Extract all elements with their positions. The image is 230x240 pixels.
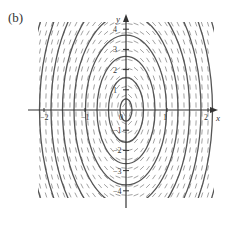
slope-mark <box>172 84 173 89</box>
slope-mark <box>63 156 64 161</box>
slope-mark <box>183 147 184 152</box>
slope-mark <box>105 139 107 144</box>
slope-mark <box>153 67 155 72</box>
slope-mark <box>134 148 138 151</box>
slope-mark <box>45 183 46 188</box>
slope-mark <box>81 75 82 80</box>
slope-mark <box>207 22 209 27</box>
slope-mark <box>190 66 191 71</box>
slope-mark <box>69 184 71 189</box>
slope-mark <box>75 147 76 152</box>
slope-mark <box>46 66 47 71</box>
slope-mark <box>141 85 143 90</box>
slope-mark <box>111 139 114 143</box>
slope-mark <box>75 49 77 54</box>
slope-mark <box>116 158 121 161</box>
slope-mark <box>171 49 173 54</box>
slope-mark <box>146 166 149 170</box>
slope-mark <box>195 184 197 189</box>
slope-mark <box>127 33 132 34</box>
slope-mark <box>52 156 53 161</box>
slope-mark <box>104 58 107 62</box>
y-tick-label: −3 <box>113 167 122 176</box>
slope-mark <box>75 22 77 27</box>
slope-mark <box>58 138 59 143</box>
slope-mark <box>207 48 208 53</box>
slope-mark <box>111 120 112 125</box>
slope-mark <box>159 40 162 44</box>
slope-mark <box>46 57 47 62</box>
slope-mark <box>99 58 102 63</box>
slope-mark <box>99 157 102 162</box>
slope-mark <box>189 48 190 53</box>
slope-mark <box>134 167 138 170</box>
slope-mark <box>99 148 101 153</box>
slope-mark <box>63 48 64 53</box>
slope-mark <box>165 67 166 72</box>
slope-mark <box>70 129 71 134</box>
slope-mark <box>177 156 178 161</box>
slope-mark <box>75 58 76 63</box>
slope-mark <box>69 31 71 36</box>
slope-mark <box>112 102 113 107</box>
slope-mark <box>178 84 179 89</box>
slope-mark <box>147 67 149 72</box>
slope-mark <box>202 147 203 152</box>
slope-mark <box>189 156 190 161</box>
y-tick-label: 3 <box>113 45 117 54</box>
slope-mark <box>134 139 137 143</box>
slope-mark <box>134 194 139 196</box>
slope-mark <box>135 94 137 99</box>
slope-mark <box>140 157 143 161</box>
slope-mark <box>172 129 173 134</box>
slope-mark <box>45 39 46 44</box>
slope-mark <box>128 94 132 98</box>
slope-mark <box>46 156 47 161</box>
slope-mark <box>158 193 161 197</box>
slope-mark <box>207 193 209 198</box>
slope-mark <box>116 41 121 43</box>
slope-mark <box>190 84 191 89</box>
slope-mark <box>159 49 161 54</box>
slope-mark <box>87 58 89 63</box>
slope-mark <box>100 120 101 125</box>
slope-mark <box>184 84 185 89</box>
slope-mark <box>39 48 40 53</box>
slope-mark <box>202 138 203 143</box>
slope-mark <box>183 175 185 180</box>
slope-mark <box>45 193 47 198</box>
slope-mark <box>134 41 139 43</box>
slope-mark <box>105 76 107 81</box>
slope-mark <box>75 175 77 180</box>
slope-mark <box>64 66 65 71</box>
slope-mark <box>159 138 160 143</box>
slope-mark <box>201 165 202 170</box>
slope-mark <box>39 174 40 179</box>
slope-mark <box>105 85 107 90</box>
slope-mark <box>127 176 132 177</box>
slope-mark <box>147 148 149 153</box>
slope-mark <box>134 50 138 53</box>
slope-mark <box>146 175 149 179</box>
slope-mark <box>201 22 203 27</box>
slope-mark <box>127 195 132 196</box>
slope-mark <box>165 138 166 143</box>
slope-mark <box>153 139 155 144</box>
slope-mark <box>166 84 167 89</box>
slope-mark <box>146 49 149 53</box>
slope-mark <box>140 166 144 170</box>
slope-mark <box>46 75 47 80</box>
slope-mark <box>190 138 191 143</box>
slope-mark <box>146 184 150 188</box>
slope-mark <box>104 157 107 161</box>
slope-mark <box>93 166 95 171</box>
x-tick-label: 1 <box>163 113 167 122</box>
slope-mark <box>104 166 107 170</box>
slope-mark <box>140 58 144 62</box>
slope-mark <box>147 157 150 161</box>
slope-mark <box>70 138 71 143</box>
slope-mark <box>82 129 83 134</box>
slope-mark <box>183 49 184 54</box>
slope-mark <box>190 129 191 134</box>
slope-mark <box>40 66 41 71</box>
